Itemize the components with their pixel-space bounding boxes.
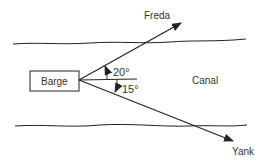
angle-upper-label: 20° [113, 66, 130, 78]
freda-label: Freda [144, 10, 171, 21]
upper-canal-bank [13, 39, 246, 44]
angle-arc-lower [115, 80, 117, 92]
canal-label: Canal [192, 75, 218, 86]
reference-line [79, 79, 137, 80]
diagram-canvas: Barge 20° 15° Canal Freda Yank [0, 0, 269, 164]
barge-label: Barge [41, 76, 68, 87]
yank-force-arrow [79, 80, 233, 141]
angle-arc-upper [105, 66, 107, 79]
angle-lower-label: 15° [122, 83, 139, 95]
lower-canal-bank [15, 124, 247, 126]
canal-force-diagram: Barge 20° 15° Canal Freda Yank [0, 0, 269, 164]
freda-force-arrow [79, 23, 181, 80]
yank-label: Yank [232, 146, 255, 157]
